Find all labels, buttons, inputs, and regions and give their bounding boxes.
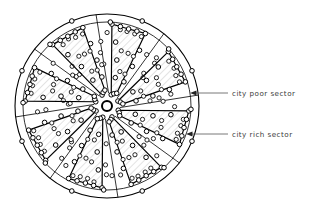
settlement-node [126, 51, 130, 55]
settlement-node [155, 154, 159, 158]
settlement-node [52, 127, 56, 131]
boundary-vertex-node [122, 80, 127, 85]
boundary-vertex-node [108, 20, 113, 25]
boundary-vertex-node [79, 64, 84, 69]
boundary-vertex-node [170, 57, 175, 62]
settlement-node [78, 175, 82, 179]
boundary-vertex-node [79, 118, 84, 123]
boundary-vertex-node [162, 165, 167, 170]
annotation-label-poor: city poor sector [232, 89, 295, 98]
boundary-vertex-node [79, 143, 84, 148]
settlement-node [51, 61, 55, 65]
settlement-node [85, 176, 89, 180]
boundary-vertex-node [169, 112, 174, 117]
settlement-node [148, 99, 152, 103]
boundary-vertex-node [183, 80, 188, 85]
settlement-node [99, 39, 103, 43]
settlement-node [60, 156, 64, 160]
boundary-vertex-node [115, 58, 120, 63]
boundary-vertex-node [91, 183, 96, 188]
settlement-node [88, 49, 92, 53]
boundary-vertex-node [119, 130, 124, 135]
settlement-node [173, 105, 177, 109]
boundary-vertex-node [117, 113, 122, 118]
boundary-vertex-node [166, 47, 171, 52]
settlement-node [145, 138, 149, 142]
boundary-vertex-node [113, 40, 118, 45]
boundary-vertex-node [48, 42, 53, 47]
settlement-node [69, 90, 73, 94]
boundary-vertex-node [160, 136, 165, 141]
boundary-vertex-node [81, 25, 86, 30]
settlement-node [71, 119, 75, 123]
settlement-node [61, 43, 65, 47]
boundary-vertex-node [76, 95, 81, 100]
boundary-vertex-node [144, 78, 149, 83]
settlement-node [161, 99, 165, 103]
settlement-node [154, 76, 158, 80]
boundary-vertex-node [115, 150, 120, 155]
boundary-vertex-node [151, 114, 156, 119]
boundary-vertex-node [144, 155, 149, 160]
settlement-node [160, 118, 164, 122]
boundary-vertex-node [131, 90, 136, 95]
boundary-vertex-node [69, 19, 74, 24]
boundary-vertex-node [174, 65, 179, 70]
boundary-vertex-node [126, 27, 131, 32]
boundary-vertex-node [25, 90, 30, 95]
boundary-vertex-node [134, 99, 139, 104]
boundary-vertex-node [39, 150, 44, 155]
boundary-vertex-node [182, 125, 187, 130]
boundary-vertex-node [96, 132, 101, 137]
settlement-node [51, 82, 55, 86]
settlement-node [64, 163, 68, 167]
settlement-node [174, 137, 178, 141]
boundary-vertex-node [180, 134, 185, 139]
settlement-node [104, 173, 108, 177]
boundary-vertex-node [114, 91, 119, 96]
settlement-node [142, 143, 146, 147]
boundary-vertex-node [20, 68, 25, 73]
settlement-node [157, 96, 161, 100]
city-center-hub [102, 101, 112, 111]
settlement-node [131, 54, 135, 58]
boundary-vertex-node [53, 143, 58, 148]
boundary-vertex-node [49, 71, 54, 76]
boundary-vertex-node [21, 100, 26, 105]
boundary-vertex-node [140, 19, 145, 24]
boundary-vertex-node [184, 117, 189, 122]
boundary-vertex-node [58, 38, 63, 43]
settlement-node [44, 108, 48, 112]
settlement-node [80, 32, 84, 36]
boundary-vertex-node [167, 87, 172, 92]
boundary-vertex-node [143, 31, 148, 36]
boundary-vertex-node [190, 139, 195, 144]
boundary-vertex-node [31, 135, 36, 140]
settlement-node [121, 157, 125, 161]
boundary-vertex-node [121, 102, 126, 107]
boundary-vertex-node [95, 58, 100, 63]
boundary-vertex-node [96, 168, 101, 173]
settlement-node [68, 146, 72, 150]
boundary-vertex-node [30, 74, 35, 79]
settlement-node [174, 73, 178, 77]
boundary-vertex-node [28, 82, 33, 87]
settlement-node [139, 34, 143, 38]
boundary-vertex-node [130, 143, 135, 148]
boundary-vertex-node [81, 87, 86, 92]
boundary-vertex-node [95, 116, 100, 121]
boundary-vertex-node [189, 107, 194, 112]
boundary-vertex-node [26, 128, 31, 133]
boundary-vertex-node [42, 120, 47, 125]
boundary-vertex-node [177, 142, 182, 147]
settlement-node [151, 137, 155, 141]
boundary-vertex-node [100, 75, 105, 80]
boundary-vertex-node [59, 114, 64, 119]
boundary-vertex-node [66, 52, 71, 57]
settlement-node [110, 174, 114, 178]
settlement-node [54, 77, 58, 81]
settlement-node [77, 54, 81, 58]
annotation-layer: city poor sectorcity rich sector [186, 89, 295, 139]
settlement-node [98, 51, 102, 55]
boundary-vertex-node [135, 29, 140, 34]
